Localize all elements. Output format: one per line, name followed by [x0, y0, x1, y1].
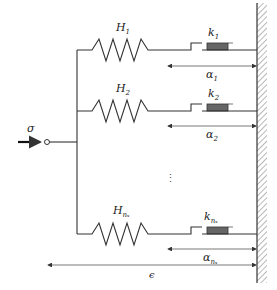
- svg-text:k1: k1: [208, 26, 219, 41]
- spring-ns: [77, 223, 202, 245]
- branch-1: H1 k1 α1: [77, 21, 257, 83]
- stress-input: σ: [18, 122, 77, 145]
- svg-text:H2: H2: [115, 82, 131, 97]
- branch-ns: Hnₛ knₛ αnₛ: [77, 204, 257, 266]
- svg-text:k2: k2: [208, 87, 220, 102]
- svg-text:knₛ: knₛ: [204, 210, 218, 225]
- branch-2: H2 k2 α2: [77, 82, 257, 143]
- spring-label-ns: H: [112, 204, 123, 217]
- svg-text:αnₛ: αnₛ: [203, 251, 218, 266]
- svg-text:α1: α1: [206, 68, 218, 83]
- friction-block-ns: [207, 227, 228, 234]
- total-strain: ϵ: [48, 265, 256, 280]
- spring-label-2: H: [115, 82, 126, 95]
- ellipsis: ⋮: [165, 172, 176, 185]
- rheological-diagram: σ H1 k1 α1 H2 k2 α2 ⋮ Hnₛ knₛ αnₛ: [0, 0, 277, 290]
- fixed-wall: [257, 3, 267, 283]
- spring-1: [77, 39, 202, 61]
- sigma-label: σ: [27, 122, 35, 135]
- svg-text:H1: H1: [115, 21, 130, 36]
- svg-text:Hnₛ: Hnₛ: [112, 204, 130, 219]
- svg-text:α2: α2: [206, 128, 218, 143]
- spring-2: [77, 100, 202, 122]
- spring-label-1: H: [115, 21, 126, 34]
- friction-block-1: [207, 43, 228, 50]
- epsilon-label: ϵ: [149, 269, 155, 280]
- friction-block-2: [207, 104, 228, 111]
